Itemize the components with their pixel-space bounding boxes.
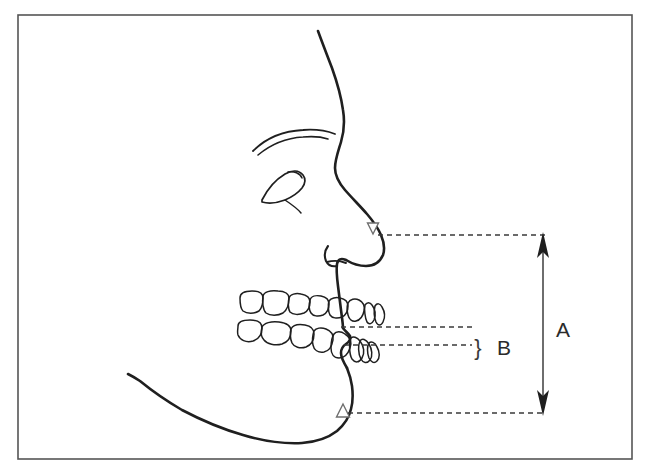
measurement-label-a: A bbox=[556, 318, 570, 341]
brace-icon-b: } bbox=[474, 335, 481, 360]
measurement-label-b: B bbox=[497, 336, 511, 359]
figure-root: } B A bbox=[0, 0, 645, 468]
profile-diagram-svg: } B A bbox=[0, 0, 645, 468]
figure-background bbox=[0, 0, 645, 468]
